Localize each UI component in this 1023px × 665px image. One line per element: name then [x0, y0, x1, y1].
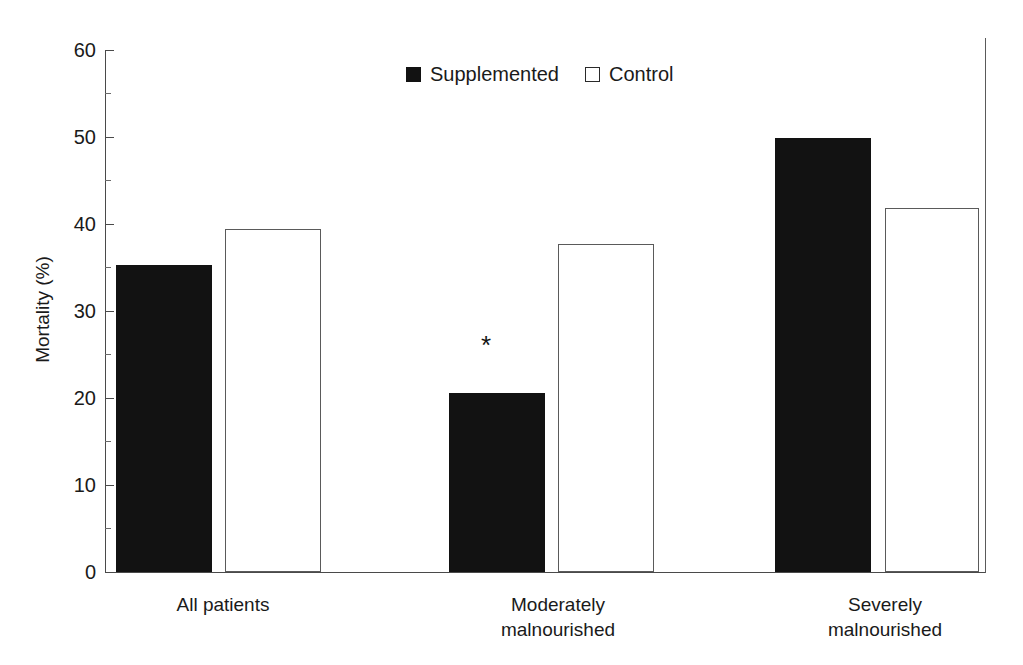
category-label-severely-malnourished-line1: Severely: [785, 592, 985, 617]
y-tick-minor-45: [105, 180, 111, 181]
y-tick-0: [105, 572, 114, 573]
y-tick-20: [105, 398, 114, 399]
bar-moderately-malnourished-supplemented: [449, 393, 545, 572]
y-tick-label-20: 20: [40, 388, 96, 408]
x-axis-line: [105, 572, 986, 573]
y-tick-label-50: 50: [40, 127, 96, 147]
y-tick-60: [105, 50, 114, 51]
bar-severely-malnourished-control: [885, 208, 979, 572]
y-tick-minor-5: [105, 528, 111, 529]
y-tick-40: [105, 224, 114, 225]
legend: Supplemented Control: [406, 64, 673, 84]
category-label-moderately-malnourished-line2: malnourished: [458, 617, 658, 642]
legend-item-supplemented: Supplemented: [406, 64, 559, 84]
y-tick-minor-35: [105, 267, 111, 268]
filled-square-icon: [406, 67, 421, 82]
y-tick-30: [105, 311, 114, 312]
legend-label-supplemented: Supplemented: [430, 64, 559, 84]
bar-all-patients-control: [225, 229, 321, 572]
y-axis-title: Mortality (%): [33, 230, 52, 390]
category-label-severely-malnourished-line2: malnourished: [785, 617, 985, 642]
y-tick-label-0: 0: [40, 562, 96, 582]
open-square-icon: [585, 67, 600, 82]
mortality-bar-chart: 60 50 40 30 20 10 0 Mortality (%) Supple…: [0, 0, 1023, 665]
significance-star-annotation: *: [481, 332, 491, 358]
y-tick-label-10: 10: [40, 475, 96, 495]
bar-severely-malnourished-supplemented: [775, 138, 871, 572]
y-tick-label-60: 60: [40, 40, 96, 60]
plot-right-border-line: [985, 38, 986, 573]
category-label-moderately-malnourished-line1: Moderately: [458, 592, 658, 617]
y-tick-minor-25: [105, 354, 111, 355]
y-tick-minor-55: [105, 93, 111, 94]
legend-label-control: Control: [609, 64, 673, 84]
y-tick-50: [105, 137, 114, 138]
bar-moderately-malnourished-control: [558, 244, 654, 572]
y-tick-minor-15: [105, 441, 111, 442]
legend-item-control: Control: [585, 64, 673, 84]
bar-all-patients-supplemented: [116, 265, 212, 572]
y-tick-10: [105, 485, 114, 486]
category-label-all-patients: All patients: [123, 592, 323, 617]
